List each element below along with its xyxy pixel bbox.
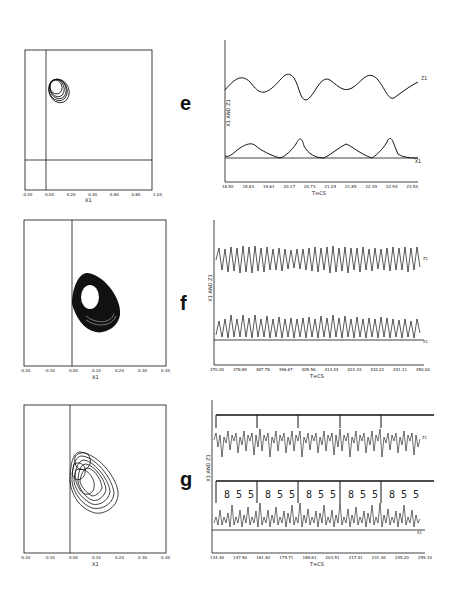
series-label-z1-g: Z1 [422,435,427,440]
x-axis-label-e-ts: T=CS [312,190,326,196]
panel-label-f: f [180,292,187,315]
time-plot-g-svg: 8 5 5 8 5 5 8 5 5 8 5 5 8 5 5 Z1 X1 [210,395,456,580]
pattern-group-5: 8 5 5 [389,489,419,500]
phase-portrait-e: -0.20 0.00 0.20 0.40 0.60 0.80 1.00 X1 [0,0,170,200]
x-axis-label-f: X1 [92,374,99,380]
y-axis-label-e: X1 AND Z1 [225,99,231,126]
time-plot-e-svg: Z1 X1 [220,30,456,210]
x-axis-label-g: X1 [92,561,99,567]
pattern-group-3: 8 5 5 [306,489,336,500]
x-axis-label-f-ts: T=CS [310,373,324,379]
time-series-g: 8 5 5 8 5 5 8 5 5 8 5 5 8 5 5 Z1 X1 X1 A… [210,395,456,580]
x-axis-ticks-e-ts: 18.50 18.84 19.61 20.17 20.73 21.29 21.8… [222,184,418,189]
series-label-z1-f: Z1 [423,256,428,261]
x-axis-ticks-f-ts: 370.00 378.89 387.78 396.67 405.56 414.4… [210,367,430,372]
pattern-group-1: 8 5 5 [224,489,254,500]
x-axis-ticks-g: -0.20 -0.10 0.00 0.10 0.20 0.30 0.40 [20,555,170,560]
phase-plot-g-svg [0,400,170,575]
x-axis-ticks-g-ts: 134.40 147.90 161.82 175.71 189.61 203.5… [210,555,432,560]
y-axis-label-f: X1 AND Z1 [207,274,213,301]
phase-portrait-g: -0.20 -0.10 0.00 0.10 0.20 0.30 0.40 X1 [0,400,170,575]
phase-plot-f-svg [0,220,170,390]
phase-portrait-f: -0.20 -0.10 0.00 0.10 0.20 0.30 0.40 X1 [0,220,170,390]
series-label-x1-f: X1 [423,339,428,344]
time-series-f: Z1 X1 X1 AND Z1 370.00 378.89 387.78 396… [210,215,456,395]
pattern-group-4: 8 5 5 [348,489,378,500]
x-axis-label-g-ts: T=CS [310,561,324,567]
pattern-annotations: 8 5 5 8 5 5 8 5 5 8 5 5 8 5 5 [224,489,419,500]
pattern-group-2: 8 5 5 [265,489,295,500]
series-label-x1-e: X1 [415,158,421,164]
y-axis-label-g: X1 AND Z1 [205,454,211,481]
panel-label-g: g [180,468,192,491]
series-label-z1-e: Z1 [421,75,427,81]
x-axis-label-e: X1 [85,197,92,203]
phase-plot-e-svg [0,0,170,200]
panel-label-e: e [180,92,191,115]
series-label-x1-g: X1 [417,530,422,535]
x-axis-ticks-e: -0.20 0.00 0.20 0.40 0.60 0.80 1.00 [22,192,162,197]
time-series-e: Z1 X1 X1 AND Z1 18.50 18.84 19.61 20.17 … [220,30,456,210]
x-axis-ticks-f: -0.20 -0.10 0.00 0.10 0.20 0.30 0.40 [20,368,170,373]
